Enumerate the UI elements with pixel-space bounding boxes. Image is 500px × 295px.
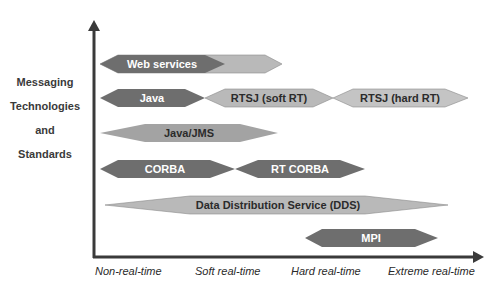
shape-rtsj-hard: RTSJ (hard RT) bbox=[333, 89, 468, 107]
shape-java-jms: Java/JMS bbox=[100, 124, 278, 142]
shape-mpi: MPI bbox=[305, 229, 438, 247]
x-label-extreme-real-time: Extreme real-time bbox=[388, 265, 475, 277]
label-dds: Data Distribution Service (DDS) bbox=[196, 199, 361, 211]
y-axis bbox=[88, 20, 100, 258]
x-label-soft-real-time: Soft real-time bbox=[195, 265, 260, 277]
shape-web-services: Web services bbox=[100, 55, 282, 73]
label-rtsj-hard: RTSJ (hard RT) bbox=[360, 92, 440, 104]
label-rtsj-soft: RTSJ (soft RT) bbox=[231, 92, 308, 104]
shape-corba: CORBA bbox=[100, 160, 235, 178]
shape-java: Java bbox=[100, 89, 205, 107]
x-axis bbox=[93, 251, 484, 263]
label-rt-corba: RT CORBA bbox=[271, 163, 329, 175]
diagram-canvas: Web services Java RTSJ (soft RT) RTSJ (h… bbox=[0, 0, 500, 295]
y-axis-arrow-icon bbox=[88, 20, 100, 31]
label-web-services: Web services bbox=[127, 58, 197, 70]
x-axis-arrow-icon bbox=[473, 251, 484, 263]
label-java-jms: Java/JMS bbox=[164, 127, 214, 139]
label-corba: CORBA bbox=[145, 163, 185, 175]
shape-rt-corba: RT CORBA bbox=[235, 160, 365, 178]
x-label-non-real-time: Non-real-time bbox=[95, 265, 162, 277]
label-java: Java bbox=[140, 92, 165, 104]
label-mpi: MPI bbox=[361, 232, 381, 244]
shape-rtsj-soft: RTSJ (soft RT) bbox=[205, 89, 333, 107]
x-label-hard-real-time: Hard real-time bbox=[291, 265, 361, 277]
shape-dds: Data Distribution Service (DDS) bbox=[105, 196, 448, 214]
